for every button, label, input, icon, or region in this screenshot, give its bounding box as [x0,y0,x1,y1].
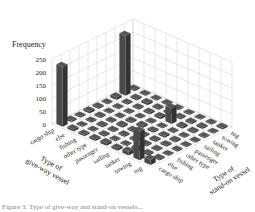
bar [111,143,122,150]
bar [133,126,144,160]
z-axis-title: Frequency [12,40,46,49]
z-tick-label: 0 [43,121,47,129]
bar [165,103,176,124]
z-tick-label: 50 [39,108,47,116]
bar [141,98,152,105]
bar [100,138,111,146]
z-axis: 050100150200250 [36,56,47,129]
bar [154,112,165,119]
figure-caption: Figure 3. Type of give-way and stand-on … [2,203,253,212]
bar [119,31,130,96]
bar [116,121,127,128]
z-tick-label: 200 [36,69,47,77]
give-way-tick-label: cargo ship [28,126,55,145]
z-tick-label: 250 [36,56,47,64]
bar [110,92,121,100]
bar [56,62,67,127]
z-tick-label: 100 [36,95,47,103]
z-tick-label: 150 [36,82,47,90]
bar [83,106,94,113]
give-way-tick-label: tug [132,164,143,175]
bar [176,122,187,129]
bar [67,124,78,131]
3d-bar-chart: 050100150200250 cargo shipelsefishingoth… [0,0,255,212]
